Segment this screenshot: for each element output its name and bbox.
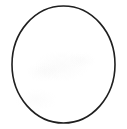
circle-drawing-svg (0, 0, 127, 129)
figure-canvas: A single thin dark circle outline center… (0, 0, 127, 129)
canvas-background (0, 0, 127, 129)
